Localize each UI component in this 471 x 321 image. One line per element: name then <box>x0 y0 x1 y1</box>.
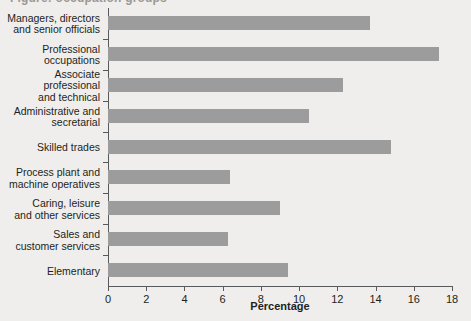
x-axis-tick <box>146 286 147 291</box>
category-label: Professionaloccupations <box>0 44 100 67</box>
bar <box>108 109 309 123</box>
bar <box>108 47 439 61</box>
y-axis-tick <box>103 39 108 40</box>
x-axis-tick <box>376 286 377 291</box>
bar-rows <box>108 8 452 286</box>
category-label: Administrative andsecretarial <box>0 106 100 129</box>
y-axis-tick <box>103 224 108 225</box>
category-label-line: Skilled trades <box>0 142 100 154</box>
bar-row <box>108 8 452 39</box>
category-label-line: Elementary <box>0 266 100 278</box>
category-label: Managers, directorsand senior officials <box>0 13 100 36</box>
y-axis-tick <box>103 193 108 194</box>
y-axis-tick <box>103 132 108 133</box>
category-label-line: and other services <box>0 210 100 222</box>
category-label-line: and technical <box>0 92 100 104</box>
category-label-line: and senior officials <box>0 24 100 36</box>
x-axis-tick <box>261 286 262 291</box>
x-axis-tick <box>299 286 300 291</box>
bar-row <box>108 255 452 286</box>
bar <box>108 232 228 246</box>
category-label-line: customer services <box>0 241 100 253</box>
category-label-line: secretarial <box>0 117 100 129</box>
y-axis-tick <box>103 101 108 102</box>
x-axis-tick <box>452 286 453 291</box>
x-axis-tick <box>337 286 338 291</box>
clipped-header-text: Figure: occupation groups <box>0 0 471 7</box>
bar <box>108 78 343 92</box>
bar-row <box>108 70 452 101</box>
x-axis-tick <box>414 286 415 291</box>
clipped-header-label: Figure: occupation groups <box>10 0 167 5</box>
x-axis-tick <box>184 286 185 291</box>
category-label: Skilled trades <box>0 142 100 154</box>
x-axis-tick <box>223 286 224 291</box>
category-label: Sales andcustomer services <box>0 229 100 252</box>
bar-row <box>108 39 452 70</box>
category-label: Process plant andmachine operatives <box>0 167 100 190</box>
bar <box>108 140 391 154</box>
bar-row <box>108 224 452 255</box>
x-axis-tick <box>108 286 109 291</box>
x-axis-title: Percentage <box>108 300 452 312</box>
bar-row <box>108 193 452 224</box>
bar-chart: Figure: occupation groups Managers, dire… <box>0 0 471 321</box>
category-label: Caring, leisureand other services <box>0 198 100 221</box>
x-axis-line <box>108 286 452 287</box>
bar-row <box>108 101 452 132</box>
category-label: Associateprofessionaland technical <box>0 69 100 104</box>
bar <box>108 263 288 277</box>
y-axis-tick <box>103 70 108 71</box>
plot-area: 024681012141618 <box>108 8 452 286</box>
category-label: Elementary <box>0 266 100 278</box>
category-label-line: Sales and <box>0 229 100 241</box>
y-axis-tick <box>103 255 108 256</box>
bar <box>108 16 370 30</box>
bar <box>108 201 280 215</box>
bar <box>108 170 230 184</box>
category-axis-labels: Managers, directorsand senior officialsP… <box>0 8 104 286</box>
bar-row <box>108 132 452 163</box>
bar-row <box>108 162 452 193</box>
category-label-line: machine operatives <box>0 179 100 191</box>
category-label-line: occupations <box>0 55 100 67</box>
y-axis-tick <box>103 162 108 163</box>
